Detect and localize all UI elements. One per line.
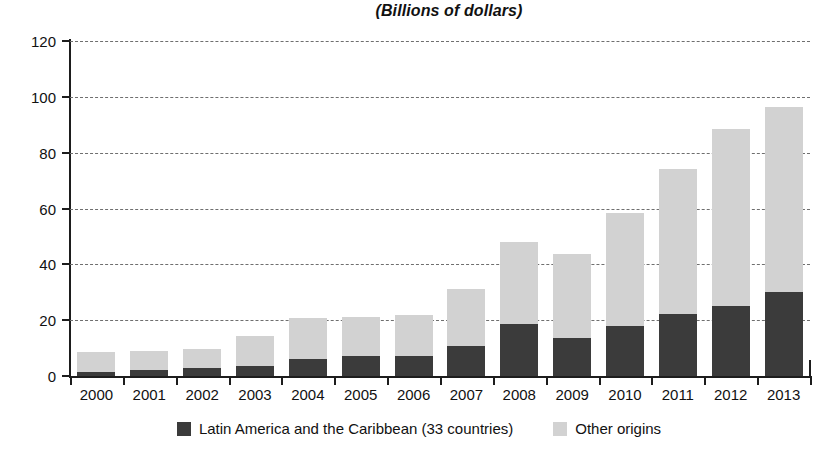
- y-tick-label: 120: [4, 33, 56, 50]
- y-tick-mark-80: [62, 152, 70, 154]
- bar-segment-other-origins: [77, 352, 115, 372]
- bar-segment-latin-america-caribbean: [342, 356, 380, 376]
- bar-segment-latin-america-caribbean: [659, 314, 697, 376]
- bar-group: [765, 107, 803, 376]
- bar-segment-other-origins: [289, 318, 327, 359]
- bar-group: [447, 289, 485, 376]
- x-tick-mark: [176, 377, 178, 385]
- x-tick-label: 2006: [384, 386, 444, 403]
- legend-label: Latin America and the Caribbean (33 coun…: [199, 420, 513, 437]
- legend-swatch-icon: [553, 422, 567, 436]
- x-tick-mark: [651, 377, 653, 385]
- x-tick-mark: [70, 377, 72, 385]
- x-tick-mark: [281, 377, 283, 385]
- bar-group: [289, 318, 327, 376]
- bar-segment-other-origins: [606, 213, 644, 327]
- bars-layer: [70, 41, 810, 376]
- bar-segment-other-origins: [236, 336, 274, 367]
- bar-segment-latin-america-caribbean: [606, 326, 644, 376]
- bar-group: [236, 336, 274, 376]
- x-tick-mark: [440, 377, 442, 385]
- bar-group: [342, 317, 380, 376]
- bar-group: [395, 315, 433, 376]
- legend-item[interactable]: Latin America and the Caribbean (33 coun…: [177, 420, 513, 437]
- bar-segment-latin-america-caribbean: [395, 356, 433, 376]
- bar-segment-latin-america-caribbean: [183, 368, 221, 376]
- x-tick-mark: [387, 377, 389, 385]
- bar-segment-latin-america-caribbean: [130, 370, 168, 376]
- x-tick-label: 2003: [225, 386, 285, 403]
- legend-swatch-icon: [177, 422, 191, 436]
- bar-group: [500, 242, 538, 376]
- y-tick-mark-120: [62, 40, 70, 42]
- bar-segment-latin-america-caribbean: [77, 372, 115, 376]
- y-tick-label: 20: [4, 312, 56, 329]
- bar-group: [77, 352, 115, 376]
- bar-group: [659, 169, 697, 376]
- y-tick-label: 80: [4, 144, 56, 161]
- legend-item[interactable]: Other origins: [553, 420, 661, 437]
- bar-segment-latin-america-caribbean: [447, 346, 485, 376]
- bar-segment-other-origins: [447, 289, 485, 346]
- x-tick-mark: [810, 377, 812, 385]
- x-tick-label: 2013: [754, 386, 814, 403]
- x-tick-mark: [704, 377, 706, 385]
- chart-legend: Latin America and the Caribbean (33 coun…: [0, 420, 838, 437]
- bar-segment-other-origins: [183, 349, 221, 369]
- x-tick-mark: [546, 377, 548, 385]
- y-tick-label: 40: [4, 256, 56, 273]
- x-tick-label: 2010: [595, 386, 655, 403]
- bar-segment-other-origins: [395, 315, 433, 357]
- bar-segment-other-origins: [765, 107, 803, 293]
- x-tick-label: 2012: [701, 386, 761, 403]
- x-tick-label: 2011: [648, 386, 708, 403]
- bar-segment-latin-america-caribbean: [553, 338, 591, 376]
- x-tick-mark: [599, 377, 601, 385]
- legend-label: Other origins: [575, 420, 661, 437]
- y-tick-label: 100: [4, 88, 56, 105]
- bar-group: [183, 349, 221, 376]
- bar-segment-other-origins: [659, 169, 697, 313]
- bar-segment-other-origins: [130, 351, 168, 371]
- y-tick-label: 60: [4, 200, 56, 217]
- bar-group: [712, 129, 750, 376]
- x-tick-label: 2001: [119, 386, 179, 403]
- bar-segment-latin-america-caribbean: [712, 306, 750, 376]
- y-tick-label: 0: [4, 368, 56, 385]
- x-tick-label: 2005: [331, 386, 391, 403]
- x-tick-mark: [229, 377, 231, 385]
- x-tick-label: 2008: [489, 386, 549, 403]
- bar-segment-other-origins: [500, 242, 538, 324]
- y-tick-mark-0: [62, 375, 70, 377]
- x-tick-mark: [757, 377, 759, 385]
- bar-group: [553, 254, 591, 376]
- x-tick-mark: [123, 377, 125, 385]
- x-tick-mark: [334, 377, 336, 385]
- bar-segment-other-origins: [553, 254, 591, 339]
- x-tick-mark: [493, 377, 495, 385]
- x-tick-label: 2002: [172, 386, 232, 403]
- stacked-bar-chart: (Billions of dollars) 020406080100120 20…: [0, 0, 838, 459]
- bar-segment-latin-america-caribbean: [500, 324, 538, 376]
- bar-segment-latin-america-caribbean: [765, 292, 803, 376]
- y-tick-mark-100: [62, 96, 70, 98]
- x-tick-label: 2007: [436, 386, 496, 403]
- x-tick-label: 2004: [278, 386, 338, 403]
- bar-group: [130, 351, 168, 376]
- bar-group: [606, 213, 644, 376]
- y-tick-mark-20: [62, 319, 70, 321]
- y-tick-mark-40: [62, 263, 70, 265]
- chart-title: (Billions of dollars): [0, 2, 838, 20]
- bar-segment-other-origins: [712, 129, 750, 306]
- plot-area: [70, 41, 810, 376]
- y-tick-mark-60: [62, 208, 70, 210]
- bar-segment-other-origins: [342, 317, 380, 357]
- bar-segment-latin-america-caribbean: [289, 359, 327, 376]
- x-tick-label: 2009: [542, 386, 602, 403]
- bar-segment-latin-america-caribbean: [236, 366, 274, 376]
- x-tick-label: 2000: [66, 386, 126, 403]
